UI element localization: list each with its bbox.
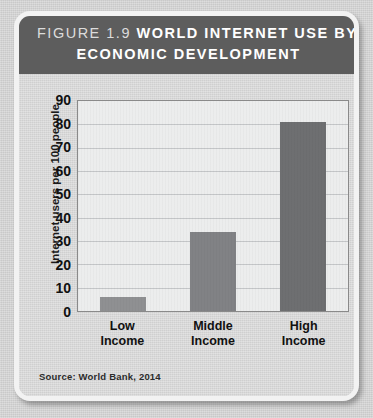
y-axis-tick-label: 20: [55, 257, 71, 273]
y-axis-tick-label: 30: [55, 233, 71, 249]
figure-title-text-1: WORLD INTERNET USE BY: [137, 25, 358, 41]
figure-title-bar: FIGURE 1.9 WORLD INTERNET USE BY ECONOMI…: [19, 16, 354, 74]
y-axis-title: Internet users per 100 people: [49, 84, 61, 284]
source-note: Source: World Bank, 2014: [39, 371, 161, 382]
x-axis-tick-label-line: Income: [100, 334, 144, 349]
x-axis-tick-label: MiddleIncome: [191, 319, 235, 349]
figure-title-line-2: ECONOMIC DEVELOPMENT: [37, 44, 340, 65]
x-axis-tick-label-line: Income: [282, 334, 326, 349]
x-axis-tick-label-line: High: [282, 319, 326, 334]
bar: [280, 122, 327, 311]
figure-card: FIGURE 1.9 WORLD INTERNET USE BY ECONOMI…: [14, 11, 359, 401]
x-axis-tick-label-line: Middle: [191, 319, 235, 334]
x-axis-tick-label: HighIncome: [282, 319, 326, 349]
y-axis-tick-label: 0: [63, 304, 71, 320]
y-axis-tick-label: 60: [55, 163, 71, 179]
figure-number-label: FIGURE 1.9: [37, 25, 131, 41]
bar-chart: 0102030405060708090 LowIncomeMiddleIncom…: [77, 100, 349, 312]
x-axis-tick-label-line: Income: [191, 334, 235, 349]
y-axis-tick-label: 70: [55, 139, 71, 155]
x-axis-tick-label: LowIncome: [100, 319, 144, 349]
y-axis-tick-label: 10: [55, 280, 71, 296]
bar: [100, 297, 147, 311]
y-axis-tick-label: 40: [55, 210, 71, 226]
y-axis-tick-label: 80: [55, 116, 71, 132]
figure-title-text-2: ECONOMIC DEVELOPMENT: [76, 46, 300, 62]
plot-frame: [77, 100, 349, 312]
figure-title-line-1: FIGURE 1.9 WORLD INTERNET USE BY: [37, 23, 340, 44]
y-axis-tick-label: 90: [55, 92, 71, 108]
bar: [190, 232, 237, 311]
page-background: FIGURE 1.9 WORLD INTERNET USE BY ECONOMI…: [0, 0, 373, 418]
x-axis-tick-label-line: Low: [100, 319, 144, 334]
y-axis-tick-label: 50: [55, 186, 71, 202]
figure-body: Internet users per 100 people 0102030405…: [19, 74, 354, 396]
